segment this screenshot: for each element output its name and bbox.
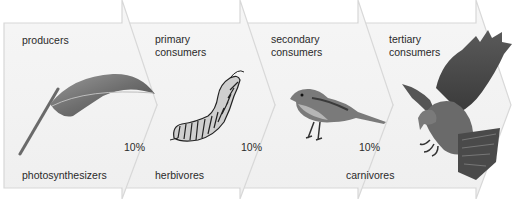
title-line2: consumers bbox=[389, 46, 440, 59]
stage-title-tertiary: tertiary consumers bbox=[389, 33, 440, 59]
transfer-label-1: 10% bbox=[124, 141, 145, 153]
food-chain-diagram: producers primary consumers secondary co… bbox=[0, 0, 528, 199]
transfer-label-3: 10% bbox=[359, 141, 380, 153]
title-line1: producers bbox=[22, 34, 69, 47]
stage-title-producers: producers bbox=[22, 34, 69, 47]
title-line1: tertiary bbox=[389, 33, 440, 46]
role-label-carnivores: carnivores bbox=[346, 169, 394, 182]
caterpillar-icon bbox=[168, 66, 248, 146]
leaf-icon bbox=[18, 64, 168, 159]
sparrow-icon bbox=[288, 86, 388, 146]
role-label-herbivores: herbivores bbox=[155, 169, 204, 182]
title-line1: primary bbox=[155, 33, 206, 46]
transfer-label-2: 10% bbox=[241, 141, 262, 153]
stage-title-secondary: secondary consumers bbox=[271, 33, 322, 59]
stage-title-primary: primary consumers bbox=[155, 33, 206, 59]
title-line2: consumers bbox=[271, 46, 322, 59]
title-line2: consumers bbox=[155, 46, 206, 59]
role-label-photosynthesizers: photosynthesizers bbox=[22, 169, 107, 182]
title-line1: secondary bbox=[271, 33, 322, 46]
